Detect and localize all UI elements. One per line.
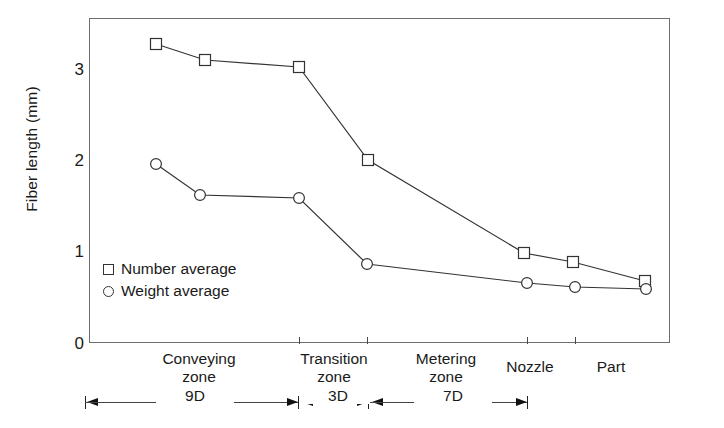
legend-item-weight-average: Weight average — [103, 280, 236, 302]
x-tick-mark-3 — [527, 337, 528, 344]
x-category-part-line1: Part — [575, 358, 647, 376]
chart-figure: Fiber length (mm) 0 1 2 3 — [0, 0, 724, 428]
x-category-metering-zone-line2: zone — [387, 368, 505, 386]
x-category-conveying-zone: Conveying zone — [140, 350, 258, 386]
legend-item-number-average: Number average — [103, 258, 236, 280]
zone-dimension-row: 9D 3D 7D — [0, 396, 724, 422]
x-category-conveying-zone-line1: Conveying — [140, 350, 258, 368]
chart-legend: Number average Weight average — [103, 258, 236, 302]
dimension-9d-label: 9D — [156, 388, 234, 404]
x-category-transition-zone-line1: Transition — [275, 350, 393, 368]
x-tick-mark-2 — [367, 337, 368, 344]
square-marker-icon — [103, 264, 114, 275]
x-category-metering-zone-line1: Metering — [387, 350, 505, 368]
y-tick-label-2: 2 — [58, 152, 84, 169]
y-tick-label-0: 0 — [58, 335, 84, 352]
x-tick-mark-4 — [575, 337, 576, 344]
dimension-7d-label: 7D — [414, 388, 492, 404]
x-tick-mark-1 — [299, 337, 300, 344]
x-category-part: Part — [575, 358, 647, 376]
x-category-nozzle-line1: Nozzle — [490, 358, 570, 376]
x-category-transition-zone-line2: zone — [275, 368, 393, 386]
circle-marker-icon — [103, 286, 114, 297]
x-category-nozzle: Nozzle — [490, 358, 570, 376]
y-tick-label-1: 1 — [58, 243, 84, 260]
legend-label-weight-average: Weight average — [121, 280, 229, 302]
x-category-metering-zone: Metering zone — [387, 350, 505, 386]
x-category-conveying-zone-line2: zone — [140, 368, 258, 386]
x-category-transition-zone: Transition zone — [275, 350, 393, 386]
legend-label-number-average: Number average — [121, 258, 236, 280]
y-axis-label: Fiber length (mm) — [23, 59, 41, 239]
dimension-3d-label: 3D — [299, 388, 377, 404]
y-tick-label-3: 3 — [58, 61, 84, 78]
